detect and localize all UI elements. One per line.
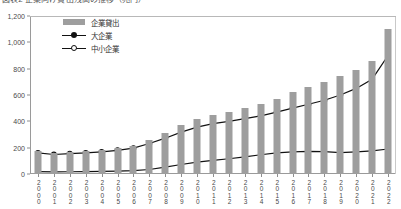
x-axis-tick-mark <box>197 174 198 177</box>
chart-column: 2011 <box>205 16 221 174</box>
bar-corporate-lending <box>369 61 376 174</box>
bar-corporate-lending <box>257 104 264 174</box>
legend-item-sme: 中小企業 <box>62 43 119 53</box>
chart-column: 2019 <box>332 16 348 174</box>
x-axis-tick-label: 2005 <box>114 179 121 205</box>
x-axis-tick-mark <box>54 174 55 177</box>
y-axis-tick-label: 400 <box>13 118 25 125</box>
legend-item-bar: 企業貸出 <box>62 17 119 27</box>
legend-item-large-enterprise: 大企業 <box>62 30 119 40</box>
x-axis-tick-label: 2006 <box>130 179 137 205</box>
x-axis-tick-mark <box>277 174 278 177</box>
x-axis-tick-label: 2015 <box>273 179 280 205</box>
x-axis-tick-label: 2000 <box>35 179 42 205</box>
bar-corporate-lending <box>289 92 296 174</box>
x-axis-tick-label: 2017 <box>305 179 312 205</box>
x-axis-tick-label: 2022 <box>385 179 392 205</box>
x-axis-tick-mark <box>118 174 119 177</box>
bar-corporate-lending <box>305 87 312 174</box>
chart-column: 2018 <box>316 16 332 174</box>
bar-corporate-lending <box>194 119 201 174</box>
legend-label-sme: 中小企業 <box>91 43 119 54</box>
x-axis-tick-mark <box>388 174 389 177</box>
x-axis-tick-label: 2004 <box>98 179 105 205</box>
chart-column: 2000 <box>30 16 46 174</box>
chart-title: 図表2 企業向け貸出残高の推移（兆円） <box>2 0 147 4</box>
bar-corporate-lending <box>82 151 89 174</box>
x-axis-tick-label: 2020 <box>353 179 360 205</box>
y-axis-tick-label: 200 <box>13 144 25 151</box>
line-open-marker-icon <box>62 43 86 53</box>
bar-corporate-lending <box>50 153 57 174</box>
x-axis-tick-label: 2009 <box>178 179 185 205</box>
bar-corporate-lending <box>98 150 105 174</box>
x-axis-tick-label: 2014 <box>257 179 264 205</box>
bar-corporate-lending <box>178 125 185 174</box>
x-axis-tick-mark <box>293 174 294 177</box>
x-axis-tick-mark <box>372 174 373 177</box>
chart-column: 2013 <box>237 16 253 174</box>
x-axis-tick-label: 2018 <box>321 179 328 205</box>
chart-column: 2022 <box>380 16 396 174</box>
bar-corporate-lending <box>34 151 41 174</box>
chart-column: 2001 <box>46 16 62 174</box>
x-axis-tick-mark <box>102 174 103 177</box>
chart-legend: 企業貸出 大企業 中小企業 <box>62 17 119 53</box>
bar-corporate-lending <box>337 76 344 174</box>
y-axis-tick-label: 0 <box>21 171 25 178</box>
x-axis-tick-label: 2013 <box>242 179 249 205</box>
chart-title-clipped: 図表2 企業向け貸出残高の推移（兆円） <box>0 0 401 7</box>
bar-corporate-lending <box>130 146 137 174</box>
chart-column: 2016 <box>285 16 301 174</box>
x-axis-tick-mark <box>261 174 262 177</box>
x-axis-tick-mark <box>38 174 39 177</box>
bar-corporate-lending <box>209 115 216 174</box>
bar-corporate-lending <box>385 29 392 174</box>
y-axis-tick-label: 1,000 <box>7 39 25 46</box>
chart-column: 2020 <box>348 16 364 174</box>
chart-column: 2008 <box>157 16 173 174</box>
x-axis-tick-mark <box>149 174 150 177</box>
x-axis-tick-mark <box>165 174 166 177</box>
chart-column: 2010 <box>189 16 205 174</box>
bar-corporate-lending <box>114 148 121 174</box>
legend-label-bar: 企業貸出 <box>91 17 119 28</box>
x-axis-tick-label: 2001 <box>51 179 58 205</box>
legend-label-large-enterprise: 大企業 <box>91 30 112 41</box>
x-axis-tick-mark <box>356 174 357 177</box>
x-axis-tick-label: 2003 <box>82 179 89 205</box>
x-axis-tick-label: 2010 <box>194 179 201 205</box>
chart-column: 2015 <box>269 16 285 174</box>
x-axis-tick-label: 2011 <box>210 179 217 205</box>
x-axis-tick-label: 2007 <box>146 179 153 205</box>
x-axis-tick-label: 2016 <box>289 179 296 205</box>
chart-column: 2021 <box>364 16 380 174</box>
x-axis-tick-mark <box>308 174 309 177</box>
bar-corporate-lending <box>225 112 232 174</box>
x-axis-tick-label: 2021 <box>369 179 376 205</box>
bar-corporate-lending <box>321 82 328 174</box>
x-axis-tick-mark <box>133 174 134 177</box>
chart-figure: 図表2 企業向け貸出残高の推移（兆円） 02004006008001,0001,… <box>0 0 401 209</box>
bar-corporate-lending <box>273 99 280 174</box>
chart-column: 2017 <box>301 16 317 174</box>
x-axis-tick-mark <box>70 174 71 177</box>
bar-corporate-lending <box>146 140 153 174</box>
x-axis-tick-mark <box>340 174 341 177</box>
x-axis-tick-mark <box>181 174 182 177</box>
chart-column: 2009 <box>173 16 189 174</box>
x-axis-tick-label: 2019 <box>337 179 344 205</box>
bar-corporate-lending <box>241 108 248 174</box>
x-axis-tick-mark <box>229 174 230 177</box>
x-axis-tick-mark <box>86 174 87 177</box>
x-axis-tick-mark <box>213 174 214 177</box>
chart-column: 2006 <box>125 16 141 174</box>
bar-corporate-lending <box>353 70 360 174</box>
line-filled-marker-icon <box>62 30 86 40</box>
x-axis-tick-mark <box>324 174 325 177</box>
x-axis-tick-label: 2002 <box>67 179 74 205</box>
chart-column: 2007 <box>141 16 157 174</box>
x-axis-tick-label: 2008 <box>162 179 169 205</box>
x-axis-tick-label: 2012 <box>226 179 233 205</box>
bar-corporate-lending <box>66 152 73 174</box>
